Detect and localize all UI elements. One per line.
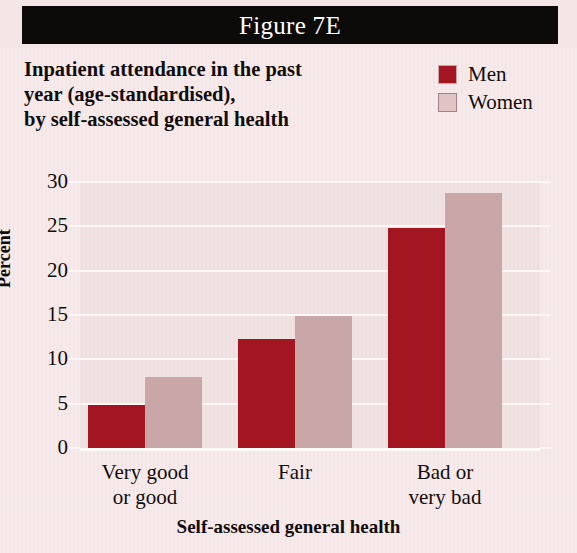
y-tick-label-30: 30 [22,171,68,192]
plot-area [80,182,540,450]
figure-number-label: Figure 7E [239,13,341,38]
bar-men-2 [388,228,445,448]
chart-title-line-2: year (age-standardised), [24,82,424,107]
y-tick-mark-right-20 [540,270,551,272]
y-tick-mark-right-10 [540,358,551,360]
y-tick-label-5: 5 [22,393,68,414]
chart-title: Inpatient attendance in the past year (a… [24,57,424,132]
chart-title-line-1: Inpatient attendance in the past [24,57,424,82]
x-category-label-2-line-0: Bad or [373,460,517,485]
figure-banner: Figure 7E [0,0,577,48]
bar-women-1 [295,316,352,448]
y-tick-mark-left-15 [69,314,80,316]
y-tick-label-10: 10 [22,348,68,369]
bar-women-0 [145,377,202,448]
x-axis-title: Self-assessed general health [0,516,577,538]
legend-swatch-men-icon [438,65,457,84]
chart-legend: Men Women [438,60,533,116]
figure-root: Figure 7E Inpatient attendance in the pa… [0,0,577,553]
y-axis-title: Percent [0,229,15,288]
x-category-label-1-line-0: Fair [223,460,367,485]
y-tick-label-0: 0 [22,437,68,458]
bar-women-2 [445,193,502,448]
legend-item-men: Men [438,60,533,88]
y-tick-mark-right-5 [540,403,551,405]
y-tick-mark-left-5 [69,403,80,405]
x-category-label-2: Bad orvery bad [373,460,517,510]
y-tick-mark-left-20 [69,270,80,272]
y-tick-mark-right-25 [540,225,551,227]
bar-men-0 [88,405,145,448]
y-tick-mark-left-0 [69,447,80,449]
y-tick-mark-right-0 [540,447,551,449]
y-tick-label-15: 15 [22,304,68,325]
y-tick-mark-left-25 [69,225,80,227]
legend-item-women: Women [438,88,533,116]
y-tick-label-20: 20 [22,260,68,281]
y-tick-mark-left-30 [69,181,80,183]
y-tick-mark-right-30 [540,181,551,183]
y-tick-mark-right-15 [540,314,551,316]
banner-bar: Figure 7E [22,6,558,44]
bar-men-1 [238,339,295,448]
x-category-label-2-line-1: very bad [373,485,517,510]
legend-label-men: Men [468,64,507,85]
chart-title-line-3: by self-assessed general health [24,107,424,132]
x-category-label-0-line-0: Very good [73,460,217,485]
x-category-label-0-line-1: or good [73,485,217,510]
y-tick-mark-left-10 [69,358,80,360]
x-category-label-0: Very goodor good [73,460,217,510]
x-axis-baseline [80,448,540,451]
legend-swatch-women-icon [438,93,457,112]
gridline-30 [80,181,540,183]
legend-label-women: Women [468,92,533,113]
y-tick-label-25: 25 [22,215,68,236]
x-category-label-1: Fair [223,460,367,485]
